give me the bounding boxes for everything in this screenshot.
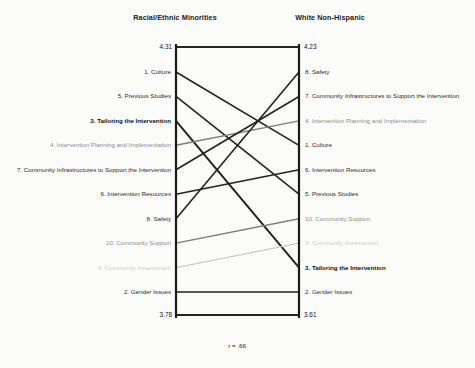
axis-label-left-item-2: 2. Gender Issues [124,289,171,295]
endpoint-value-right-bottom: 3.61 [304,312,316,318]
slope-line-item-3 [176,121,299,268]
endpoint-value-right-top: 4.23 [304,44,316,50]
axis-label-right-item-7: 7. Community Infrastructures to Support … [305,93,459,99]
axis-label-right-item-2: 2. Gender Issues [305,289,352,295]
figure-canvas: Racial/Ethnic Minorities White Non-Hispa… [0,0,475,368]
axis-label-left-item-7: 7. Community Infrastructures to Support … [17,167,171,173]
axis-label-left-item-6: 6. Intervention Resources [100,191,171,197]
axis-label-right-item-5: 5. Previous Studies [305,191,358,197]
axis-label-left-item-5: 5. Previous Studies [118,93,171,99]
slope-line-item-6 [176,170,299,194]
axis-label-right-item-1: 1. Culture [305,142,332,148]
endpoint-value-left-top: 4.31 [160,44,172,50]
slope-line-item-9 [176,243,299,267]
slope-chart-plot [0,0,475,368]
axis-label-left-item-10: 10. Community Support [106,240,171,246]
axis-label-left-item-3: 3. Tailoring the Intervention [90,118,171,124]
endpoint-value-left-bottom: 3.78 [160,312,172,318]
slope-line-item-7 [176,96,299,169]
axis-label-right-item-10: 10. Community Support [305,216,370,222]
connector-lines [176,47,299,315]
axis-label-right-item-8: 8. Safety [305,69,329,75]
slope-line-item-10 [176,219,299,243]
axis-label-left-item-1: 1. Culture [144,69,171,75]
axis-label-left-item-8: 8. Safety [147,216,171,222]
slope-line-item-1 [176,72,299,145]
correlation-annotation: r = .66 [228,342,246,349]
axis-label-right-item-4: 4. Intervention Planning and Implementat… [305,118,426,124]
axis-label-left-item-9: 9. Community Assessment [98,264,171,270]
slope-line-item-8 [176,72,299,219]
axis-label-right-item-9: 9. Community Assessment [305,240,378,246]
axis-label-right-item-3: 3. Tailoring the Intervention [305,264,386,270]
axis-label-right-item-6: 6. Intervention Resources [305,167,376,173]
axis-label-left-item-4: 4. Intervention Planning and Implementat… [50,142,171,148]
